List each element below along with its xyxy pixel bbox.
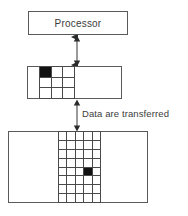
grid-cell — [63, 88, 75, 99]
transfer-caption-label: Data are transferred — [82, 108, 169, 119]
grid-cell — [52, 88, 64, 99]
diagram-canvas: Processor — [0, 0, 188, 216]
grid-cell — [59, 176, 67, 185]
grid-cell — [59, 168, 67, 177]
grid-cell — [63, 78, 75, 89]
grid-cell — [84, 168, 92, 177]
grid-cell — [59, 141, 67, 150]
grid-cell — [59, 132, 67, 141]
grid-cell — [93, 194, 101, 203]
grid-cell — [76, 141, 84, 150]
grid-cell — [52, 78, 64, 89]
cache-block — [27, 66, 122, 99]
grid-cell — [76, 194, 84, 203]
grid-cell — [84, 194, 92, 203]
grid-cell — [76, 185, 84, 194]
processor-cache-arrow-icon — [70, 35, 84, 67]
grid-cell — [59, 159, 67, 168]
grid-cell — [40, 88, 52, 99]
grid-cell — [67, 132, 75, 141]
processor-label: Processor — [55, 18, 102, 29]
grid-cell — [93, 168, 101, 177]
memory-grid — [58, 131, 101, 203]
grid-cell — [84, 141, 92, 150]
grid-cell — [93, 150, 101, 159]
grid-cell — [93, 141, 101, 150]
grid-cell — [93, 159, 101, 168]
grid-cell — [67, 168, 75, 177]
cache-grid — [39, 66, 75, 99]
grid-cell — [67, 194, 75, 203]
grid-cell — [67, 159, 75, 168]
grid-cell — [84, 176, 92, 185]
grid-cell — [93, 176, 101, 185]
grid-cell — [76, 150, 84, 159]
grid-cell — [59, 185, 67, 194]
grid-cell — [84, 150, 92, 159]
grid-cell — [63, 67, 75, 78]
memory-block — [8, 131, 148, 203]
grid-cell — [67, 176, 75, 185]
grid-cell — [93, 132, 101, 141]
grid-cell — [67, 185, 75, 194]
grid-cell — [76, 159, 84, 168]
grid-cell — [59, 150, 67, 159]
grid-cell — [67, 150, 75, 159]
grid-cell — [67, 141, 75, 150]
grid-cell — [59, 194, 67, 203]
grid-cell — [84, 185, 92, 194]
grid-cell — [76, 176, 84, 185]
grid-cell — [93, 185, 101, 194]
grid-cell — [40, 67, 52, 78]
grid-cell — [52, 67, 64, 78]
processor-block: Processor — [28, 11, 128, 35]
grid-cell — [84, 159, 92, 168]
grid-cell — [40, 78, 52, 89]
grid-cell — [76, 132, 84, 141]
grid-cell — [76, 168, 84, 177]
grid-cell — [84, 132, 92, 141]
